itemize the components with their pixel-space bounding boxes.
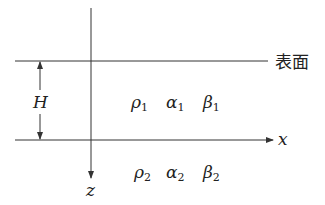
svg-text:ρ1: ρ1	[130, 92, 148, 114]
layer2-parameters: ρ2 α2 β2	[133, 162, 220, 184]
svg-text:α2: α2	[166, 162, 184, 184]
layered-medium-diagram: H 表面 x z ρ1 α1 β1 ρ2 α2 β2	[0, 0, 325, 205]
layer1-parameters: ρ1 α1 β1	[130, 92, 220, 114]
svg-text:ρ2: ρ2	[133, 162, 151, 184]
svg-text:β2: β2	[202, 162, 220, 184]
thickness-label: H	[32, 92, 49, 112]
x-axis-label: x	[278, 129, 288, 149]
z-axis-label: z	[85, 180, 96, 200]
surface-label: 表面	[275, 52, 309, 72]
diagram-svg: H 表面 x z ρ1 α1 β1 ρ2 α2 β2	[0, 0, 325, 205]
svg-text:α1: α1	[166, 92, 184, 114]
svg-text:β1: β1	[202, 92, 220, 114]
